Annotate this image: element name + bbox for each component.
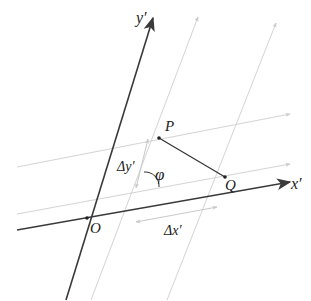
y-prime-axis [66,18,153,300]
grid-line-y-through-q [167,23,276,300]
grid-lines-parallel-x [17,114,290,214]
segment-pq [159,138,225,177]
delta-x-label: Δx′ [164,224,182,238]
grid-line-x-through-p [17,114,290,167]
delta-y-label: Δy′ [117,160,135,174]
point-p-label: P [165,119,174,134]
x-axis-label: x′ [291,176,302,192]
delta-x-dimension-line [136,207,217,222]
point-p [157,136,161,140]
delta-y-dimension-line [136,139,148,188]
grid-line-y-through-p [91,17,198,300]
point-q-label: Q [225,178,236,193]
origin-label: O [90,221,101,236]
y-axis-label: y′ [136,10,147,26]
point-origin [85,216,89,220]
oblique-coordinate-diagram [0,0,311,301]
angle-phi-label: φ [155,166,164,183]
